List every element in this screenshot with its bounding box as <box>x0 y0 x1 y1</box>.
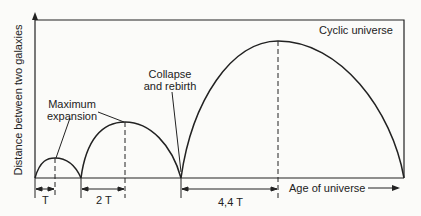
y-axis-label: Distance between two galaxies <box>12 20 24 180</box>
x-axis-arrow-icon <box>392 185 400 191</box>
chart-title: Cyclic universe <box>319 24 393 36</box>
duration-arrows <box>36 187 277 191</box>
y-axis-arrow-icon <box>32 12 38 20</box>
duration-4-4t: 4,4 T <box>218 196 243 208</box>
duration-t: T <box>42 194 49 206</box>
x-axis-label: Age of universe <box>289 182 365 194</box>
collapse-label: Collapseand rebirth <box>140 68 200 92</box>
duration-2t: 2 T <box>96 194 112 206</box>
max-expansion-label: Maximumexpansion <box>42 98 102 122</box>
max-expansion-pointer-1 <box>56 118 70 158</box>
cycle-1-curve <box>35 158 81 178</box>
collapse-pointer <box>172 92 181 172</box>
cycle-2-curve <box>81 122 181 178</box>
cycle-3-curve <box>181 41 404 178</box>
